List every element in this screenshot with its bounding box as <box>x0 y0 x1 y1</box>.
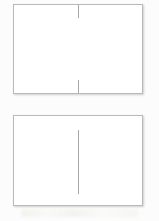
panel-top[interactable] <box>13 4 143 94</box>
center-divider-line <box>78 130 79 194</box>
page-canvas <box>0 0 159 221</box>
footer-artifact <box>22 209 138 217</box>
panel-bottom[interactable] <box>13 115 143 206</box>
bottom-center-tick-mark <box>78 80 79 93</box>
top-center-tick-mark <box>78 5 79 18</box>
